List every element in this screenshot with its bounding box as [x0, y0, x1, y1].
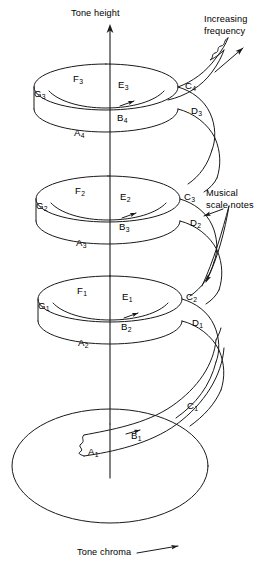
note-octave: 2 [193, 296, 197, 303]
musical-scale-notes-label: Musical scale notes [206, 188, 254, 211]
note-octave: 2 [128, 326, 132, 333]
ribbon-turn2-top-outer [36, 176, 180, 222]
note-octave: 3 [42, 93, 46, 100]
note-label-d2: D2 [190, 218, 201, 228]
note-letter: F [73, 73, 79, 84]
note-letter: C [185, 80, 192, 91]
note-letter: A [76, 237, 82, 248]
note-letter: B [117, 112, 123, 123]
note-letter: C [184, 191, 191, 202]
note-letter: D [190, 217, 197, 228]
note-octave: 3 [125, 84, 129, 91]
note-label-b1: B1 [131, 431, 141, 441]
note-label-e1: E1 [122, 292, 132, 302]
note-letter: F [75, 185, 81, 196]
ribbon-turn4-bottom-edge [84, 348, 224, 456]
note-octave: 3 [83, 242, 87, 249]
note-label-f3: F3 [73, 74, 83, 84]
note-label-f1: F1 [77, 286, 87, 296]
note-letter: B [119, 221, 125, 232]
ribbon-cross-1to2-a [188, 150, 212, 184]
note-label-e2: E2 [120, 192, 130, 202]
note-octave: 4 [192, 85, 196, 92]
tone-chroma-leader [137, 546, 178, 553]
note-octave: 2 [197, 222, 201, 229]
note-label-a1: A1 [88, 447, 98, 457]
note-label-b2: B2 [121, 322, 131, 332]
note-label-g1: G1 [38, 301, 49, 311]
note-label-c3: C3 [184, 192, 195, 202]
note-label-d3: D3 [191, 106, 202, 116]
ribbon-cross-2to3-b [206, 290, 219, 304]
note-letter: G [34, 88, 41, 99]
ribbon-turn1-top-outer [34, 64, 178, 110]
note-octave: 2 [81, 190, 85, 197]
note-label-c1: C1 [187, 401, 198, 411]
helix-drawing [0, 0, 279, 569]
note-label-d1: D1 [192, 318, 203, 328]
note-letter: A [74, 127, 80, 138]
note-octave: 1 [194, 405, 198, 412]
ribbon-turn2-bottom-rim [36, 221, 180, 244]
note-letter: D [192, 317, 199, 328]
note-octave: 2 [85, 342, 89, 349]
increasing-frequency-label: Increasing frequency [204, 14, 247, 37]
note-label-c2: C2 [186, 292, 197, 302]
note-octave: 4 [124, 117, 128, 124]
note-label-e3: E3 [118, 80, 128, 90]
note-letter: B [131, 430, 137, 441]
tone-helix-figure: Tone height Increasing frequency Musical… [0, 0, 279, 569]
note-letter: C [187, 400, 194, 411]
note-octave: 3 [191, 196, 195, 203]
note-letter: E [118, 79, 124, 90]
note-octave: 2 [127, 196, 131, 203]
ribbon-top-torn-end [210, 38, 228, 60]
note-letter: A [88, 446, 94, 457]
note-octave: 1 [138, 435, 142, 442]
note-label-a4: A4 [74, 128, 84, 138]
note-label-g2: G2 [36, 201, 47, 211]
note-letter: E [122, 291, 128, 302]
note-label-c4: C4 [185, 81, 196, 91]
note-letter: G [36, 200, 43, 211]
ribbon-turn2-inner-edge [51, 203, 166, 220]
ribbon-turn1-descend-top [178, 87, 215, 150]
tone-chroma-label: Tone chroma [77, 547, 131, 558]
note-label-f2: F2 [75, 186, 85, 196]
note-octave: 3 [79, 78, 83, 85]
note-label-a2: A2 [78, 338, 88, 348]
note-letter: C [186, 291, 193, 302]
note-octave: 4 [81, 132, 85, 139]
note-letter: A [78, 337, 84, 348]
note-label-g3: G3 [34, 89, 45, 99]
ribbon-cross-2to3-a [190, 262, 214, 296]
tone-height-label: Tone height [71, 8, 120, 19]
note-octave: 1 [83, 290, 87, 297]
note-octave: 3 [126, 226, 130, 233]
note-octave: 1 [46, 305, 50, 312]
note-letter: F [77, 285, 83, 296]
note-letter: E [120, 191, 126, 202]
note-octave: 3 [198, 110, 202, 117]
ribbon-turn4-torn-end [79, 435, 84, 456]
note-octave: 1 [129, 296, 133, 303]
note-letter: D [191, 105, 198, 116]
ribbon-turn1-inner-edge [49, 91, 164, 108]
note-octave: 1 [95, 451, 99, 458]
note-octave: 2 [44, 205, 48, 212]
note-letter: G [38, 300, 45, 311]
ribbon-turn1-bottom-rim [34, 109, 178, 132]
note-label-b4: B4 [117, 113, 127, 123]
musical-notes-leader-wedge [202, 206, 229, 286]
note-label-a3: A3 [76, 238, 86, 248]
note-label-b3: B3 [119, 222, 129, 232]
note-octave: 1 [199, 322, 203, 329]
note-letter: B [121, 321, 127, 332]
